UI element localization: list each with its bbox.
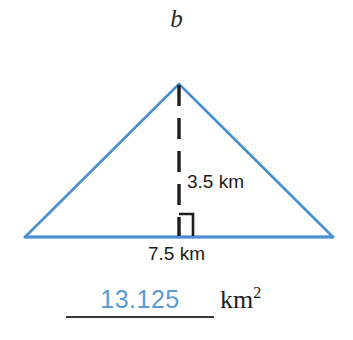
answer-unit-exponent: 2: [253, 284, 261, 301]
answer-value[interactable]: 13.125: [66, 284, 214, 314]
answer-unit-base: km: [220, 285, 253, 314]
right-angle-icon: [179, 214, 193, 236]
answer-row: 13.125 km2: [0, 283, 353, 331]
part-label: b: [0, 6, 353, 31]
answer-unit: km2: [220, 285, 261, 315]
triangle-figure: [0, 70, 353, 250]
height-label: 3.5 km: [187, 172, 244, 191]
worksheet-problem-panel: b 3.5 km 7.5 km 13.125 km2: [0, 0, 353, 340]
base-label: 7.5 km: [0, 244, 353, 263]
